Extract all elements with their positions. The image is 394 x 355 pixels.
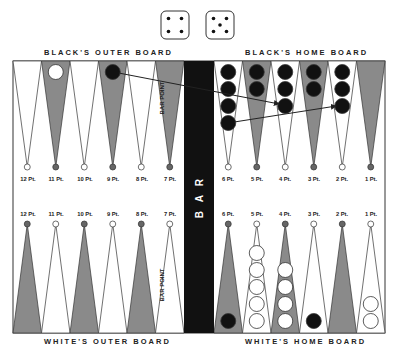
bar-point-label-bottom: BAR POINT	[159, 269, 165, 302]
black-checker	[249, 65, 264, 80]
white-checker	[278, 280, 293, 295]
point-label: 7 Pt.	[156, 211, 184, 217]
white-home-board-title: WHITE'S HOME BOARD	[245, 337, 366, 346]
white-checker	[278, 263, 293, 278]
point-label: 4 Pt.	[271, 211, 299, 217]
point-label: 10 Pt.	[71, 176, 99, 182]
point-label: 6 Pt.	[214, 176, 242, 182]
point-tip-marker	[339, 164, 345, 170]
bar-point-label-top: BAR POINT	[159, 82, 165, 115]
point-tip-marker	[138, 164, 144, 170]
die-five	[205, 10, 235, 40]
white-outer-board-title: WHITE'S OUTER BOARD	[44, 337, 171, 346]
black-checker	[221, 65, 236, 80]
black-home-board-title: BLACK'S HOME BOARD	[245, 48, 368, 57]
point-tip-marker	[110, 221, 116, 227]
black-checker	[249, 82, 264, 97]
point-tip-marker	[110, 164, 116, 170]
black-checker	[221, 116, 236, 131]
white-checker	[363, 297, 378, 312]
black-checker	[278, 82, 293, 97]
black-checker	[105, 65, 120, 80]
white-checker	[278, 314, 293, 329]
black-checker	[278, 99, 293, 114]
point-label: 9 Pt.	[99, 211, 127, 217]
point-tip-marker	[24, 221, 30, 227]
point-label: 4 Pt.	[271, 176, 299, 182]
point-label: 2 Pt.	[328, 211, 356, 217]
die-four	[160, 10, 190, 40]
point-tip-marker	[225, 221, 231, 227]
black-checker	[335, 65, 350, 80]
point-tip-marker	[167, 164, 173, 170]
backgammon-diagram: BLACK'S OUTER BOARD BLACK'S HOME BOARD W…	[0, 0, 394, 355]
bar-letter-r: R	[194, 176, 205, 190]
black-checker	[306, 314, 321, 329]
bar-letter-b: B	[194, 208, 205, 222]
point-tip-marker	[167, 221, 173, 227]
white-checker	[363, 314, 378, 329]
point-label: 12 Pt.	[14, 176, 42, 182]
point-label: 1 Pt.	[357, 176, 385, 182]
point-tip-marker	[24, 164, 30, 170]
black-checker	[335, 82, 350, 97]
white-checker	[278, 297, 293, 312]
point-label: 6 Pt.	[214, 211, 242, 217]
point-tip-marker	[339, 221, 345, 227]
white-checker	[249, 246, 264, 261]
white-checker	[249, 280, 264, 295]
point-tip-marker	[311, 164, 317, 170]
point-tip-marker	[368, 221, 374, 227]
point-tip-marker	[368, 164, 374, 170]
point-tip-marker	[225, 164, 231, 170]
black-checker	[306, 65, 321, 80]
point-tip-marker	[282, 221, 288, 227]
bar-letter-a: A	[194, 192, 205, 206]
point-label: 10 Pt.	[71, 211, 99, 217]
point-label: 12 Pt.	[14, 211, 42, 217]
point-tip-marker	[53, 164, 59, 170]
white-checker	[249, 297, 264, 312]
point-tip-marker	[53, 221, 59, 227]
black-checker	[278, 65, 293, 80]
point-label: 11 Pt.	[42, 211, 70, 217]
point-tip-marker	[254, 221, 260, 227]
black-checker	[335, 99, 350, 114]
point-label: 3 Pt.	[300, 176, 328, 182]
point-label: 11 Pt.	[42, 176, 70, 182]
point-label: 3 Pt.	[300, 211, 328, 217]
white-checker	[249, 314, 264, 329]
point-label: 5 Pt.	[243, 211, 271, 217]
black-checker	[306, 82, 321, 97]
point-label: 9 Pt.	[99, 176, 127, 182]
point-tip-marker	[254, 164, 260, 170]
black-checker	[221, 99, 236, 114]
white-checker	[249, 263, 264, 278]
point-label: 5 Pt.	[243, 176, 271, 182]
point-tip-marker	[282, 164, 288, 170]
black-checker	[221, 314, 236, 329]
point-label: 8 Pt.	[128, 211, 156, 217]
point-tip-marker	[138, 221, 144, 227]
point-label: 2 Pt.	[328, 176, 356, 182]
point-tip-marker	[81, 221, 87, 227]
point-label: 7 Pt.	[156, 176, 184, 182]
white-checker	[48, 65, 63, 80]
point-label: 8 Pt.	[128, 176, 156, 182]
point-tip-marker	[311, 221, 317, 227]
black-outer-board-title: BLACK'S OUTER BOARD	[44, 48, 173, 57]
point-tip-marker	[81, 164, 87, 170]
point-label: 1 Pt.	[357, 211, 385, 217]
